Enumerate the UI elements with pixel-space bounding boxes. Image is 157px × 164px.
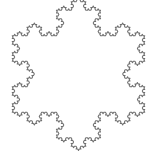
koch-snowflake-figure: Koch Snowflake Koch snowflake fractal cu… <box>0 0 157 164</box>
koch-snowflake-svg: Koch snowflake fractal curve outline <box>0 0 157 164</box>
koch-snowflake-path <box>12 0 145 151</box>
